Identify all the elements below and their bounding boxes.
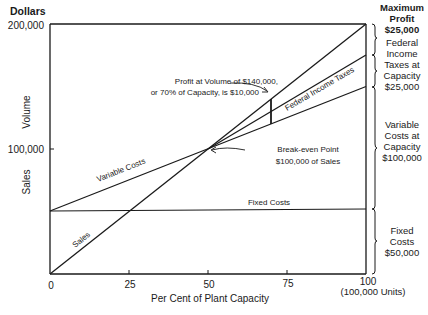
variable-costs-bracket-label-2: Costs at bbox=[385, 130, 420, 141]
fixed-costs-label: Fixed Costs bbox=[248, 198, 290, 207]
y-unit-label: Dollars bbox=[10, 5, 46, 17]
taxes-label-4: Capacity bbox=[384, 70, 421, 81]
break-even-arrow bbox=[212, 148, 245, 150]
x-tick-0: 0 bbox=[48, 280, 54, 291]
variable-costs-label: Variable Costs bbox=[95, 157, 146, 184]
bracket-fixed-costs bbox=[372, 209, 377, 274]
break-even-chart: Dollars 200,000 100,000 Volume Sales 0 2… bbox=[0, 0, 428, 315]
fixed-costs-bracket-label-2: Costs bbox=[390, 236, 415, 247]
fixed-costs-bracket-label-3: $50,000 bbox=[385, 247, 419, 258]
x-tick-75: 75 bbox=[282, 278, 294, 289]
taxes-label-2: Income bbox=[386, 48, 417, 59]
break-even-annotation-line1: Break-even Point bbox=[277, 145, 339, 154]
bracket-taxes bbox=[372, 55, 377, 87]
break-even-annotation-line2: $100,000 of Sales bbox=[276, 157, 341, 166]
y-tick-100000: 100,000 bbox=[8, 144, 45, 155]
variable-costs-bracket-label-4: $100,000 bbox=[382, 152, 422, 163]
y-label-volume: Volume bbox=[21, 95, 32, 129]
x-end-note: (100,000 Units) bbox=[341, 286, 406, 297]
y-label-sales: Sales bbox=[21, 169, 32, 194]
max-profit-label-2: Profit bbox=[390, 13, 416, 24]
max-profit-label-1: Maximum bbox=[380, 2, 424, 13]
taxes-label-1: Federal bbox=[386, 37, 418, 48]
federal-income-taxes-label: Federal Income Taxes bbox=[283, 65, 355, 113]
bracket-max-profit bbox=[372, 24, 377, 55]
x-tick-50: 50 bbox=[203, 279, 215, 290]
bracket-variable-costs bbox=[372, 87, 377, 209]
max-profit-label-3: $25,000 bbox=[385, 24, 419, 35]
x-tick-25: 25 bbox=[124, 279, 136, 290]
taxes-label-5: $25,000 bbox=[385, 81, 419, 92]
variable-costs-bracket-label-1: Variable bbox=[385, 119, 419, 130]
fixed-costs-bracket-label-1: Fixed bbox=[390, 225, 413, 236]
taxes-label-3: Taxes at bbox=[384, 59, 420, 70]
x-axis-label: Per Cent of Plant Capacity bbox=[151, 293, 269, 304]
profit-annotation-line1: Profit at Volume of $140,000, bbox=[175, 77, 278, 86]
profit-annotation-line2: or 70% of Capacity, is $10,000 bbox=[151, 88, 260, 97]
fixed-costs-line bbox=[50, 209, 366, 211]
y-tick-200000: 200,000 bbox=[8, 20, 45, 31]
sales-label: Sales bbox=[71, 230, 92, 249]
variable-costs-bracket-label-3: Capacity bbox=[384, 141, 421, 152]
